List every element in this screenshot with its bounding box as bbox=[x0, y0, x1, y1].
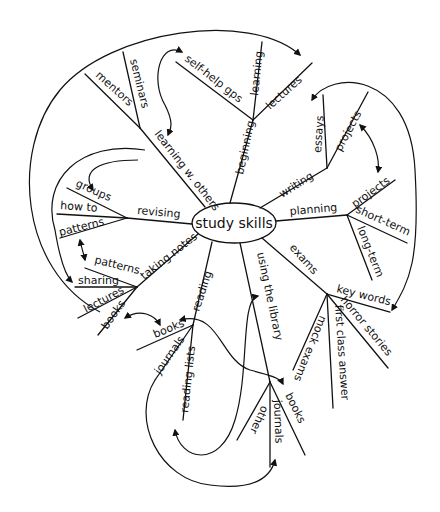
leaf-long-term: long-term bbox=[354, 224, 386, 279]
leaf-reading-lists: reading lists bbox=[178, 345, 198, 413]
leaf-first-class-answer: first class answer bbox=[332, 304, 352, 401]
leaf-revising-patterns: patterns bbox=[58, 215, 106, 239]
leaf-essays: essays bbox=[311, 115, 327, 153]
leaf-learning: learning bbox=[248, 50, 266, 96]
leaf-self-help-groups: self-help gps bbox=[182, 52, 245, 105]
branch-label-planning: planning bbox=[289, 201, 338, 218]
leaf-how-to: how to bbox=[60, 199, 98, 215]
leaf-mock-exams: mock exams bbox=[291, 314, 329, 384]
branch-writing: writing essays projects bbox=[260, 92, 368, 208]
leaf-library-books: books bbox=[282, 391, 308, 426]
branch-label-revising: revising bbox=[137, 204, 181, 221]
leaf-library-journals: journals bbox=[271, 399, 286, 444]
branch-label-beginning: beginning bbox=[233, 119, 257, 175]
leaf-projects-planning: projects bbox=[349, 174, 392, 210]
center-node: study skills bbox=[192, 203, 276, 243]
link-books-books bbox=[125, 313, 160, 325]
branch-label-learning-with-others: learning w. others bbox=[152, 128, 223, 214]
branch-revising: revising groups how to patterns bbox=[57, 177, 192, 239]
mind-map-canvas: study skills learning w. others mentors … bbox=[0, 0, 440, 512]
branch-label-writing: writing bbox=[277, 169, 316, 200]
branch-using-the-library: using the library books journals other bbox=[237, 243, 308, 467]
branch-label-reading: reading bbox=[189, 269, 214, 313]
link-patterns-patterns bbox=[80, 240, 85, 260]
link-projects-projects bbox=[360, 125, 378, 172]
branch-label-taking-notes: taking notes bbox=[138, 230, 200, 283]
branch-label-exams: exams bbox=[287, 241, 321, 277]
center-label: study skills bbox=[195, 215, 273, 231]
leaf-projects-writing: projects bbox=[332, 108, 364, 153]
link-self-help-to-learning-others bbox=[158, 50, 182, 135]
cross-links bbox=[29, 30, 416, 486]
leaf-lectures-top: lectures bbox=[263, 73, 305, 112]
leaf-taking-notes-sharing: sharing bbox=[78, 274, 119, 287]
leaf-library-other: other bbox=[247, 404, 271, 436]
